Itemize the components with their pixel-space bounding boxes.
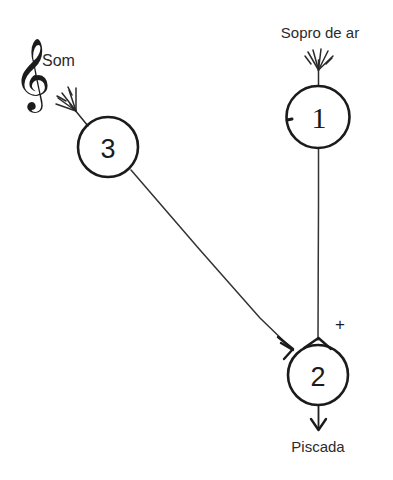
diagram-canvas: + 1 S xyxy=(0,0,393,480)
treble-clef-icon: 𝄞 xyxy=(14,37,51,113)
node-1-group[interactable]: 1 xyxy=(287,49,350,148)
node-1-left-tick xyxy=(287,119,292,120)
node-1-input-label: Sopro de ar xyxy=(281,24,359,41)
edge-node3-to-node2-line xyxy=(131,170,290,347)
fan-arrowhead-icon-node1 xyxy=(305,49,333,86)
node-3-input-label: Som xyxy=(42,52,75,69)
edge-node1-to-node2-sign: + xyxy=(335,315,345,334)
node-3-label: 3 xyxy=(100,134,115,164)
node-2-output-label: Piscada xyxy=(291,438,345,455)
node-3-group[interactable]: 3 xyxy=(56,87,138,177)
edge-node3-to-node2 xyxy=(131,170,293,359)
node-2-label: 2 xyxy=(310,362,325,392)
edge-node2-to-output xyxy=(311,405,326,430)
edge-node1-to-node2-line xyxy=(318,148,319,340)
edge-node1-to-node2: + xyxy=(304,148,345,349)
node-1-label: 1 xyxy=(312,101,327,134)
fan-arrowhead-icon-node3 xyxy=(56,87,88,126)
signal-flow-diagram: + 1 S xyxy=(0,0,393,480)
node-2-group[interactable]: 2 xyxy=(288,345,348,405)
